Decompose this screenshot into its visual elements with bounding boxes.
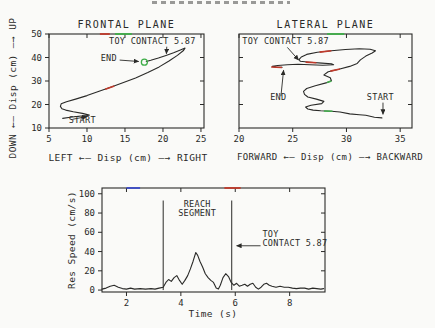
speed-time-chart: 2468020406080100REACHSEGMENTTOYCONTACT 5… (102, 188, 325, 292)
lateral-annotation: START (367, 92, 394, 102)
frontal-y-tick-label: 30 (31, 76, 42, 86)
speed-x-tick-label: 6 (233, 298, 238, 308)
lateral-color-segment (271, 67, 282, 68)
lateral-frame (239, 34, 412, 128)
frontal-x-axis-label: LEFT ←— Disp (cm) —→ RIGHT (22, 152, 234, 163)
lateral-plane-chart: 20253035TOY CONTACT 5.87ENDSTART (239, 34, 412, 128)
lateral-annotation: TOY CONTACT 5.87 (242, 36, 329, 46)
speed-annotation: REACHSEGMENT (178, 199, 216, 218)
speed-x-tick-label: 8 (287, 298, 292, 308)
frontal-annotation: END (101, 53, 117, 63)
lateral-annotation-arrow (287, 47, 298, 60)
frontal-x-tick-label: 25 (196, 134, 207, 144)
lateral-trajectory (272, 49, 382, 118)
lateral-plane-title: LATERAL PLANE (239, 19, 412, 30)
lateral-x-axis-label: FORWARD ←— Disp (cm) —→ BACKWARD (225, 152, 435, 162)
frontal-x-tick-label: 15 (120, 134, 131, 144)
lateral-color-segment (330, 69, 340, 71)
speed-trajectory (102, 253, 324, 290)
speed-y-tick-label: 0 (90, 285, 95, 295)
lateral-x-tick-label: 35 (395, 134, 406, 144)
frontal-plane-title: FRONTAL PLANE (49, 19, 204, 30)
frontal-x-tick-label: 10 (82, 134, 93, 144)
frontal-y-axis-label: DOWN ←— Disp (cm) —→ UP (7, 18, 18, 159)
time-x-axis-label: Time (s) (148, 308, 278, 319)
lateral-color-segment (320, 51, 332, 52)
lateral-color-segment (306, 62, 317, 63)
frontal-y-tick-label: 20 (31, 100, 42, 110)
frontal-y-tick-label: 40 (31, 53, 42, 63)
speed-y-tick-label: 60 (84, 227, 95, 237)
frontal-plane-chart: 5101520251020304050TOY CONTACT 5.87ENDST… (49, 34, 204, 128)
frontal-trajectory (60, 48, 185, 118)
speed-y-tick-label: 80 (84, 208, 95, 218)
figure-canvas: FRONTAL PLANE LATERAL PLANE 510152025102… (0, 0, 435, 328)
frontal-y-tick-label: 50 (31, 29, 42, 39)
speed-annotation: TOYCONTACT 5.87 (262, 229, 327, 248)
lateral-x-tick-label: 20 (234, 134, 245, 144)
frontal-end-marker (141, 59, 147, 65)
speed-y-axis-label: Res Speed (cm/s) (66, 191, 77, 289)
lateral-x-tick-label: 25 (287, 134, 298, 144)
speed-x-tick-label: 4 (178, 298, 183, 308)
cropped-header-text-artifact (152, 1, 290, 4)
frontal-y-tick-label: 10 (31, 123, 42, 133)
frontal-annotation-arrow (120, 60, 139, 61)
lateral-annotation: END (270, 92, 286, 102)
lateral-color-segment (327, 81, 331, 82)
speed-y-tick-label: 20 (84, 266, 95, 276)
frontal-color-segment (105, 86, 114, 89)
frontal-annotation: START (69, 115, 96, 125)
frontal-annotation: TOY CONTACT 5.87 (109, 36, 196, 46)
speed-y-tick-label: 100 (79, 189, 95, 199)
lateral-x-tick-label: 30 (341, 134, 352, 144)
frontal-x-tick-label: 5 (46, 134, 51, 144)
speed-y-tick-label: 40 (84, 247, 95, 257)
speed-x-tick-label: 2 (124, 298, 129, 308)
frontal-x-tick-label: 20 (158, 134, 169, 144)
